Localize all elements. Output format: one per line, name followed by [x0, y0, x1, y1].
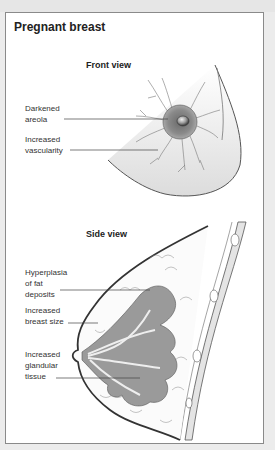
side-view-illustration [56, 222, 246, 440]
illustration [0, 0, 275, 450]
nipple [177, 116, 189, 126]
front-view-illustration [64, 65, 241, 196]
